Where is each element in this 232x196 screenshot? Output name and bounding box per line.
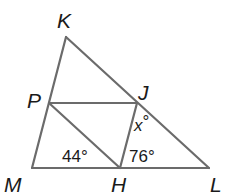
angle-label-44: 44°	[62, 147, 88, 166]
vertex-label-H: H	[111, 173, 127, 196]
vertex-label-J: J	[137, 81, 149, 104]
angle-label-x: x°	[133, 112, 149, 135]
vertex-label-K: K	[57, 9, 72, 32]
vertex-label-P: P	[27, 89, 41, 112]
triangle-diagram: K P J M H L 44° 76° x°	[0, 0, 232, 196]
angle-label-76: 76°	[129, 147, 155, 166]
vertex-label-L: L	[210, 173, 222, 196]
vertex-label-M: M	[4, 173, 22, 196]
